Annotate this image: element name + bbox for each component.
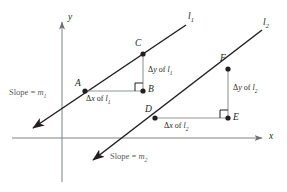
point-dot-B [140,88,145,93]
point-dot-D [152,115,157,120]
slope-caption-l1: Slope = m1 [9,88,46,99]
line-label-l2-sub: 2 [266,22,269,29]
line-l1 [33,25,186,128]
point-dot-C [140,51,145,56]
slope-caption-l1-prefix: Slope = [9,87,37,97]
delta-y-l1-line-sub: 1 [170,70,173,76]
delta-y-l2-of: of [242,83,253,92]
delta-x-l2-label: Δx of l2 [164,122,188,132]
point-dot-E [225,115,230,120]
delta-y-l2-label: Δy of l2 [233,84,257,94]
line-label-l1: l1 [188,12,194,23]
point-label-F: F [220,54,226,64]
delta-y-l1-label: Δy of l1 [148,66,172,76]
delta-y-l2-line-sub: 2 [255,88,258,94]
delta-y-l1-of: of [157,65,168,74]
point-label-B: B [148,85,154,95]
point-label-E: E [233,113,239,123]
delta-x-l1-line-sub: 1 [108,99,111,105]
delta-x-l2-of: of [173,121,184,130]
slope-caption-l2-prefix: Slope = [110,151,138,161]
line-label-l2: l2 [263,18,269,29]
delta-x-l1-label: Δx of l1 [86,95,110,105]
y-axis-label: y [68,13,72,23]
point-dot-A [82,88,87,93]
point-label-D: D [145,105,152,115]
point-dot-F [225,66,230,71]
line-l2 [93,30,262,160]
slope-of-parallel-lines-figure: y x l1 l2 A B C D E F Δy of l1 Δx of l1 … [0,0,287,192]
delta-x-l2-line-sub: 2 [186,126,189,132]
slope-caption-l2: Slope = m2 [110,152,147,163]
delta-x-l1-of: of [95,94,106,103]
slope-caption-l2-sub: 2 [145,157,148,163]
line-label-l1-sub: 1 [191,16,194,23]
point-label-A: A [75,79,81,89]
point-label-C: C [135,39,141,49]
slope-caption-l1-sub: 1 [44,93,47,99]
x-axis-label: x [269,132,273,142]
